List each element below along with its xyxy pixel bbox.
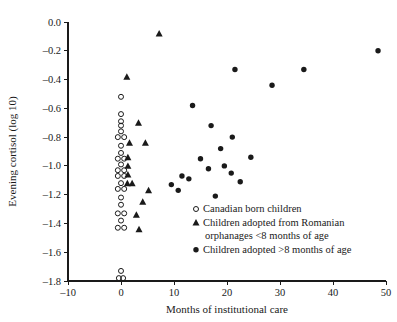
data-point <box>122 225 127 230</box>
legend-label: Children adopted >8 months of age <box>203 244 352 255</box>
data-point <box>119 112 124 117</box>
plot-canvas: 0.0–0.2–0.4–0.6–0.8–1.0–1.2–1.4–1.6–1.8–… <box>0 0 397 322</box>
data-point <box>238 179 243 184</box>
data-point <box>139 198 146 204</box>
axis-lines <box>68 22 386 281</box>
y-tick-label: –1.8 <box>42 276 61 287</box>
data-point <box>119 94 124 99</box>
y-tick-label: –1.0 <box>42 160 61 171</box>
data-point <box>115 168 120 173</box>
legend-label: orphanages <8 months of age <box>205 230 329 241</box>
data-point <box>229 170 234 175</box>
data-point <box>186 176 191 181</box>
data-point <box>179 173 184 178</box>
data-point <box>115 225 120 230</box>
data-point <box>156 30 163 36</box>
y-tick-label: –0.4 <box>42 74 62 85</box>
axes: 0.0–0.2–0.4–0.6–0.8–1.0–1.2–1.4–1.6–1.8–… <box>42 17 392 298</box>
legend-marker <box>193 219 200 225</box>
data-point <box>119 150 124 155</box>
data-point <box>115 186 120 191</box>
data-point <box>119 218 124 223</box>
data-point <box>136 226 143 232</box>
data-point <box>129 180 136 186</box>
data-point <box>115 173 120 178</box>
x-tick-label: 30 <box>275 287 286 298</box>
data-point <box>122 211 127 216</box>
data-point <box>222 163 227 168</box>
x-tick-label: 20 <box>222 287 233 298</box>
x-tick-label: 50 <box>381 287 392 298</box>
data-point <box>119 202 124 207</box>
y-tick-label: –1.4 <box>42 218 62 229</box>
data-point <box>119 268 124 273</box>
data-point <box>119 195 124 200</box>
data-point <box>198 156 203 161</box>
data-point <box>115 135 120 140</box>
x-tick-label: –10 <box>59 287 76 298</box>
y-axis-title: Evening cortisol (log 10) <box>6 96 19 207</box>
data-point <box>169 182 174 187</box>
x-tick-label: 0 <box>118 287 123 298</box>
data-point <box>122 186 127 191</box>
data-point <box>230 134 235 139</box>
scatter-plot-figure: 0.0–0.2–0.4–0.6–0.8–1.0–1.2–1.4–1.6–1.8–… <box>0 0 397 322</box>
data-point <box>190 103 195 108</box>
chart-legend: Canadian born childrenChildren adopted f… <box>193 203 352 255</box>
data-point <box>232 67 237 72</box>
data-point <box>176 188 181 193</box>
data-point <box>375 48 380 53</box>
y-tick-label: –0.8 <box>42 132 61 143</box>
y-tick-label: –0.2 <box>42 45 61 56</box>
data-point <box>269 83 274 88</box>
x-tick-label: 10 <box>169 287 180 298</box>
data-point <box>135 119 142 125</box>
data-point <box>145 187 152 193</box>
series-0 <box>115 94 126 280</box>
data-point <box>218 146 223 151</box>
data-point <box>208 123 213 128</box>
data-point <box>142 139 149 145</box>
data-point <box>213 193 218 198</box>
data-point <box>248 155 253 160</box>
data-point <box>123 73 130 79</box>
data-point <box>126 139 133 145</box>
data-point <box>119 181 124 186</box>
x-axis-title: Months of institutional care <box>166 303 288 315</box>
y-tick-label: –1.2 <box>42 189 61 200</box>
data-point <box>119 162 124 167</box>
series-2 <box>169 48 381 199</box>
y-tick-label: 0.0 <box>48 17 61 28</box>
data-point <box>115 156 120 161</box>
data-point <box>119 143 124 148</box>
data-point <box>119 129 124 134</box>
data-point <box>124 162 131 168</box>
data-point <box>133 211 140 217</box>
data-point <box>206 166 211 171</box>
x-tick-label: 40 <box>328 287 339 298</box>
data-point <box>115 211 120 216</box>
legend-marker <box>194 207 199 212</box>
data-point <box>301 67 306 72</box>
legend-marker <box>193 247 198 252</box>
data-point <box>122 135 127 140</box>
y-tick-label: –1.6 <box>42 247 61 258</box>
legend-label: Children adopted from Romanian <box>203 217 345 228</box>
y-tick-label: –0.6 <box>42 103 61 114</box>
series-1 <box>123 30 162 232</box>
legend-label: Canadian born children <box>203 203 302 214</box>
